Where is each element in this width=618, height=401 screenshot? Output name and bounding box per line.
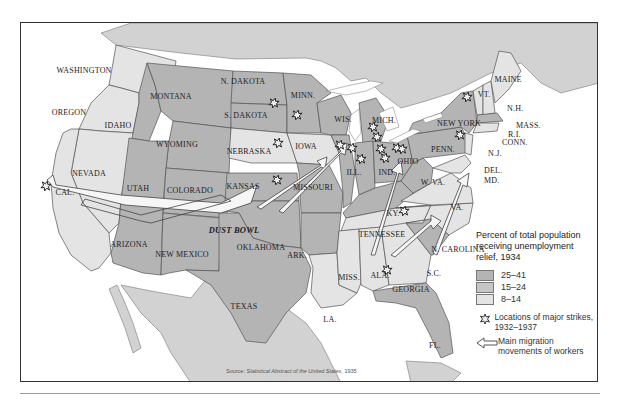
state-label: NEVADA	[72, 169, 106, 178]
yucatan-region	[406, 361, 461, 382]
legend-row-low: 8–14	[476, 293, 596, 305]
state-label: N. DAKOTA	[221, 77, 266, 86]
legend-swatch-low	[476, 294, 494, 305]
state-maryland-delaware	[433, 155, 471, 173]
state-label: ILL.	[346, 168, 361, 177]
state-label: GEORGIA	[392, 285, 429, 294]
state-label: S.C.	[427, 269, 442, 278]
map-legend: Percent of total population receiving un…	[476, 230, 596, 356]
state-callout-label: MD.	[484, 176, 500, 185]
state-label: MICH.	[372, 116, 396, 125]
state-label: TENNESSEE	[359, 230, 406, 239]
state-label: ARIZONA	[110, 240, 147, 249]
state-callout-label: CONN.	[502, 138, 528, 147]
state-label: COLORADO	[167, 186, 213, 195]
legend-swatch-mid	[476, 282, 494, 293]
legend-strike-row: Locations of major strikes, 1932–1937	[476, 313, 596, 332]
state-label: WYOMING	[156, 140, 198, 149]
state-label: LA.	[323, 315, 336, 324]
state-label: OREGON	[52, 108, 87, 117]
state-label: MINN.	[291, 91, 315, 100]
dust-bowl-label: DUST BOWL	[209, 225, 260, 235]
state-label: NEBRASKA	[227, 147, 272, 156]
legend-label-low: 8–14	[501, 294, 521, 304]
state-florida	[373, 283, 453, 358]
legend-row-mid: 15–24	[476, 281, 596, 293]
state-label: ALA.	[370, 271, 389, 280]
state-label: TEXAS	[231, 302, 258, 311]
state-label: VA.	[450, 203, 463, 212]
state-label: WIS.	[334, 115, 351, 124]
state-label: W. VA.	[421, 178, 445, 187]
state-label: KANSAS	[226, 182, 259, 191]
state-label: MONTANA	[150, 92, 192, 101]
migration-arrow-icon	[476, 337, 498, 349]
legend-strike-label: Locations of major strikes, 1932–1937	[494, 313, 596, 332]
lake-superior	[326, 81, 383, 95]
state-label: S. DAKOTA	[224, 111, 267, 120]
legend-label-high: 25–41	[501, 270, 526, 280]
state-label: OHIO	[398, 157, 419, 166]
source-prefix: Source:	[226, 368, 245, 374]
state-callout-label: N.J.	[488, 149, 502, 158]
legend-migration-label: Main migration movements of workers	[498, 337, 596, 356]
state-label: WASHINGTON	[56, 66, 111, 75]
state-label: IND.	[378, 168, 395, 177]
state-label: UTAH	[127, 184, 149, 193]
source-title: Statistical Abstract of the United State…	[247, 368, 343, 374]
state-label: KY.	[386, 209, 399, 218]
state-callout-label: MASS.	[516, 121, 541, 130]
bottom-rule	[20, 393, 600, 394]
legend-label-mid: 15–24	[501, 282, 526, 292]
legend-row-high: 25–41	[476, 269, 596, 281]
state-label: NEW YORK	[437, 119, 481, 128]
state-label: IDAHO	[105, 121, 132, 130]
legend-migration-row: Main migration movements of workers	[476, 337, 596, 356]
state-label: NEW MEXICO	[155, 250, 209, 259]
state-label: MAINE	[494, 75, 521, 84]
state-label: CAL.	[56, 188, 75, 197]
state-arkansas	[301, 213, 341, 255]
state-mississippi	[337, 229, 361, 293]
state-callout-label: DEL.	[484, 166, 502, 175]
state-callout-label: N.H.	[507, 104, 523, 113]
state-label: PENN.	[431, 145, 455, 154]
state-label: FL.	[429, 341, 441, 350]
state-label: VT.	[478, 90, 491, 99]
state-label: OKLAHOMA	[237, 243, 285, 252]
legend-swatch-high	[476, 270, 494, 281]
state-label: MISSOURI	[293, 183, 333, 192]
state-label: IOWA	[295, 142, 317, 151]
strike-icon	[476, 313, 494, 325]
source-note: Source: Statistical Abstract of the Unit…	[226, 368, 357, 374]
legend-title: Percent of total population receiving un…	[476, 230, 596, 263]
state-new-jersey	[465, 133, 473, 155]
source-year: 1935	[344, 368, 356, 374]
state-label: MISS.	[338, 273, 360, 282]
state-label: ARK.	[287, 251, 307, 260]
state-new-mexico	[161, 213, 221, 275]
